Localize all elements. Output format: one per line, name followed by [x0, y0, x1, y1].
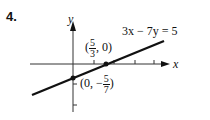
y-intercept-label: (0, −57) — [80, 74, 114, 95]
x-intercept-point — [104, 62, 109, 67]
y-intercept-point — [71, 76, 76, 81]
graph — [0, 0, 210, 120]
x-axis-arrow — [161, 61, 170, 67]
equation-label: 3x − 7y = 5 — [122, 24, 178, 39]
y-axis-label: y — [68, 12, 73, 27]
x-intercept-label: (53, 0) — [85, 38, 112, 59]
x-axis-label: x — [173, 57, 178, 72]
